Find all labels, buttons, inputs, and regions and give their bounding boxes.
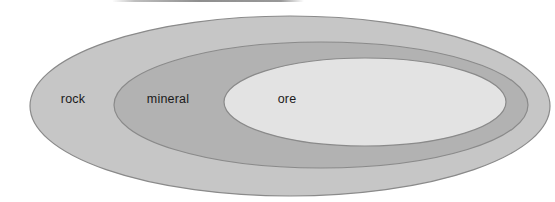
mineral-label: mineral — [147, 92, 189, 106]
euler-diagram: rock mineral ore — [0, 0, 555, 202]
ore-ellipse — [224, 58, 506, 146]
figure: rock mineral ore — [0, 0, 555, 202]
ore-label: ore — [278, 92, 297, 106]
rock-label: rock — [61, 92, 86, 106]
ellipses — [30, 16, 550, 196]
scan-artifact — [112, 0, 304, 2]
